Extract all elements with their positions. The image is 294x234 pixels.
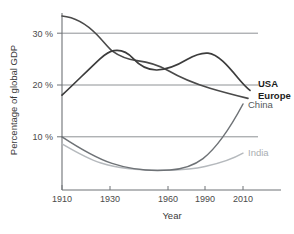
x-tick-label-1990: 1990 xyxy=(195,194,215,204)
y-axis-title: Percentage of global GDP xyxy=(8,45,19,155)
series-label-india: India xyxy=(248,147,269,158)
x-axis-title: Year xyxy=(162,210,181,221)
series-label-usa: USA xyxy=(258,78,278,89)
y-tick-label-10: 10 % xyxy=(32,132,53,142)
x-tick-label-1930: 1930 xyxy=(100,194,120,204)
y-tick-label-20: 20 % xyxy=(32,80,53,90)
series-label-china: China xyxy=(248,99,274,110)
gdp-share-line-chart: 30 % 20 % 10 % 1910 1930 1960 1990 2010 … xyxy=(0,0,294,234)
y-tick-label-30: 30 % xyxy=(32,29,53,39)
x-tick-label-2010: 2010 xyxy=(233,194,253,204)
x-tick-label-1960: 1960 xyxy=(158,194,178,204)
x-tick-label-1910: 1910 xyxy=(52,194,72,204)
